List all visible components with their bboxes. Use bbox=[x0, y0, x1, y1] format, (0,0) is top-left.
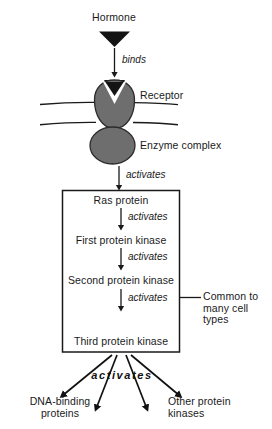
enzyme-activates-label: activates bbox=[126, 170, 165, 180]
cascade-activates-label-3: activates bbox=[128, 293, 167, 303]
dna-binding-proteins-label: DNA-binding proteins bbox=[30, 396, 91, 419]
binds-label: binds bbox=[122, 55, 146, 65]
outputs-activates-label: activates bbox=[91, 370, 153, 381]
signal-transduction-diagram: Hormone binds Receptor Enzyme complex ac… bbox=[0, 0, 272, 429]
receptor-shape-icon bbox=[95, 80, 135, 129]
other-protein-kinases-label: Other protein kinases bbox=[168, 396, 231, 419]
common-to-many-cell-types-label: Common to many cell types bbox=[203, 291, 258, 326]
cascade-step-ras-protein: Ras protein bbox=[94, 195, 149, 207]
cascade-step-second-protein-kinase: Second protein kinase bbox=[68, 275, 174, 287]
cascade-step-first-protein-kinase: First protein kinase bbox=[76, 235, 167, 247]
hormone-label: Hormone bbox=[92, 12, 136, 24]
plasma-membrane-icon bbox=[40, 102, 178, 124]
enzyme-complex-label: Enzyme complex bbox=[140, 140, 221, 152]
cascade-activates-label-2: activates bbox=[128, 252, 167, 262]
enzyme-complex-shape-icon bbox=[90, 127, 135, 164]
hormone-bound-triangle-icon bbox=[104, 80, 125, 96]
hormone-triangle-icon bbox=[99, 32, 130, 48]
cascade-activates-label-1: activates bbox=[128, 212, 167, 222]
receptor-label: Receptor bbox=[140, 90, 183, 102]
cascade-step-third-protein-kinase: Third protein kinase bbox=[74, 336, 168, 348]
